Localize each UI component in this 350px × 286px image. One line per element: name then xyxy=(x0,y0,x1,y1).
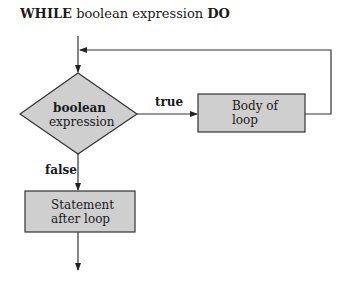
condition-line1: boolean xyxy=(53,101,115,115)
condition-line2: expression xyxy=(49,115,115,129)
true-label: true xyxy=(155,95,183,109)
after-line2: after loop xyxy=(51,212,114,226)
flowchart-canvas xyxy=(0,0,350,286)
body-line1: Body of xyxy=(232,99,278,113)
body-line2: loop xyxy=(232,113,278,127)
condition-label: boolean expression xyxy=(53,101,115,129)
body-label: Body of loop xyxy=(232,99,278,127)
after-line1: Statement xyxy=(51,198,114,212)
false-label: false xyxy=(45,163,77,177)
after-label: Statement after loop xyxy=(51,198,114,226)
